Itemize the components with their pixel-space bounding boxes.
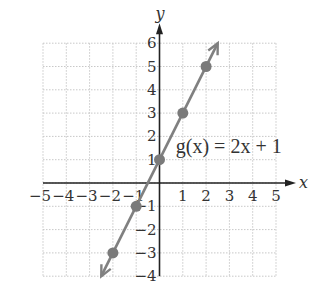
y-tick-label: 2: [147, 127, 157, 145]
data-point: [154, 154, 165, 165]
equation-label: g(x) = 2x + 1: [176, 135, 282, 158]
y-tick-label: −2: [134, 221, 156, 239]
x-tick-label: 2: [201, 187, 211, 205]
x-tick-label: 5: [271, 187, 281, 205]
data-point: [177, 108, 188, 119]
y-tick-label: 3: [147, 104, 157, 122]
x-tick-label: −2: [99, 187, 121, 205]
x-axis-label: x: [299, 173, 308, 192]
y-axis-label: y: [155, 4, 166, 23]
coordinate-plane: −5−4−3−2−112345654321−1−2−3−4 x y g(x) =…: [0, 0, 327, 286]
y-tick-label: −4: [134, 267, 156, 285]
x-tick-label: −5: [29, 187, 51, 205]
x-tick-label: −4: [52, 187, 74, 205]
data-point: [107, 247, 118, 258]
data-point: [131, 201, 142, 212]
x-tick-label: 4: [248, 187, 258, 205]
x-tick-label: 1: [178, 187, 188, 205]
data-point: [201, 61, 212, 72]
x-tick-label: 3: [225, 187, 235, 205]
y-tick-label: −3: [134, 244, 156, 262]
y-tick-label: 6: [147, 34, 157, 52]
x-tick-label: −3: [76, 187, 98, 205]
y-tick-label: 5: [147, 58, 157, 76]
y-tick-label: 4: [147, 81, 157, 99]
